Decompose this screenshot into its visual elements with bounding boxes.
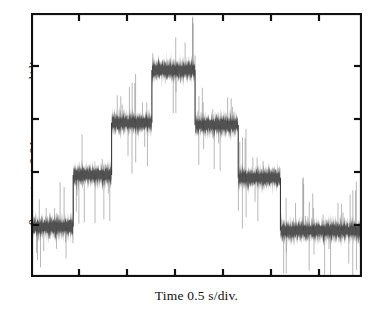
x-axis-label: Time 0.5 s/div.: [31, 288, 362, 304]
plot-area: [31, 13, 362, 277]
chart-svg: [31, 13, 362, 277]
figure-panel: θY -output 0.01 arc-second/div. Time 0.5…: [0, 0, 368, 312]
